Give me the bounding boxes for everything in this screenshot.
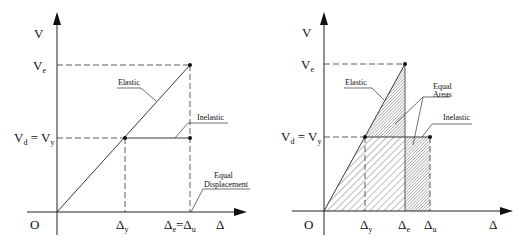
equal-areas-diagram: V Δ O Ve Vd = Vy Δy Δe Δu Elastic Equal …: [281, 12, 513, 235]
left-yield-point: [123, 136, 127, 140]
left-inelastic-leader: [175, 123, 228, 138]
left-vd-vy-label: Vd = Vy: [14, 130, 54, 147]
left-ultimate-point: [188, 136, 192, 140]
left-peak-point: [188, 63, 192, 67]
right-origin-label: O: [304, 217, 313, 232]
right-yield-point: [363, 135, 367, 139]
left-origin-label: O: [30, 217, 39, 232]
right-ve-label: Ve: [301, 57, 314, 74]
left-axis-y-label: V: [34, 26, 44, 41]
left-y-axis-arrow-icon: [53, 12, 61, 25]
right-inelastic-excess-area: [405, 137, 430, 211]
right-de-label: Δe: [398, 217, 410, 234]
left-x-axis-arrow-icon: [234, 208, 247, 216]
right-light-hatch-region: [324, 137, 405, 211]
right-dy-label: Δy: [360, 217, 372, 234]
right-areas-label: Areas: [433, 90, 452, 99]
right-du-label: Δu: [424, 217, 436, 234]
left-dy-label: Δy: [116, 217, 128, 234]
equal-displacement-diagram: V Δ O Ve Vd = Vy Δy Δe=Δu Elastic Inelas…: [14, 12, 250, 235]
right-elastic-leader: [344, 88, 384, 100]
left-ve-label: Ve: [33, 58, 46, 75]
right-x-axis-arrow-icon: [500, 207, 513, 215]
right-peak-point: [403, 62, 407, 66]
right-axis-y-label: V: [302, 25, 312, 40]
left-elastic-leader: [117, 88, 156, 101]
right-vd-vy-label: Vd = Vy: [281, 129, 321, 146]
left-de-du-label: Δe=Δu: [164, 217, 196, 234]
right-inelastic-leader: [422, 124, 472, 137]
left-axis-x-label: Δ: [216, 217, 224, 232]
right-axis-x-label: Δ: [489, 217, 497, 232]
left-displacement-label: Displacement: [204, 180, 249, 189]
right-inelastic-label: Inelastic: [443, 113, 471, 122]
right-ultimate-point: [428, 135, 432, 139]
right-elastic-label: Elastic: [345, 78, 367, 87]
left-equal-displacement-leader: [191, 189, 250, 212]
right-y-axis-arrow-icon: [320, 12, 328, 25]
left-inelastic-label: Inelastic: [197, 113, 225, 122]
left-equal-label: Equal: [214, 171, 233, 180]
left-elastic-label: Elastic: [118, 78, 140, 87]
